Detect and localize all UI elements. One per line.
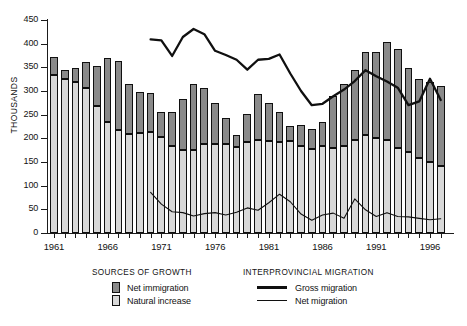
bar-segment-natural-increase (394, 148, 402, 233)
bar-group (147, 20, 155, 233)
bar-group (308, 20, 316, 233)
bar-segment-net-immigration (394, 49, 402, 148)
y-axis-tick (41, 91, 47, 92)
bar-segment-natural-increase (93, 106, 101, 233)
bar-segment-natural-increase (372, 138, 380, 233)
legend-item-natural-increase: Natural increase (92, 294, 192, 307)
bar-segment-natural-increase (233, 147, 241, 233)
legend-label-net-immigration: Net immigration (127, 283, 189, 293)
x-axis-tick (226, 234, 227, 238)
bar-segment-net-immigration (286, 126, 294, 141)
bar-group (125, 20, 133, 233)
bar-segment-net-immigration (340, 84, 348, 146)
x-axis-tick-label: 1991 (366, 241, 386, 252)
y-axis-tick (41, 162, 47, 163)
bar-segment-natural-increase (72, 82, 80, 233)
x-axis-tick (376, 234, 377, 238)
y-axis-tick-label: 300 (8, 86, 38, 95)
x-axis-tick (280, 234, 281, 238)
x-axis-tick (215, 234, 216, 238)
x-axis-tick-label: 1986 (312, 241, 332, 252)
x-axis-tick-label: 1981 (259, 241, 279, 252)
bar-segment-natural-increase (157, 137, 165, 233)
bar-segment-natural-increase (351, 140, 359, 233)
bar-group (104, 20, 112, 233)
x-axis-tick (398, 234, 399, 238)
bar-segment-net-immigration (308, 129, 316, 148)
population-growth-chart: THOUSANDS 050100150200250300350400450 19… (0, 0, 467, 326)
bar-segment-net-immigration (243, 114, 251, 141)
x-axis-tick-label: 1961 (44, 241, 64, 252)
bar-group (286, 20, 294, 233)
y-axis-tick (41, 44, 47, 45)
bar-segment-net-immigration (222, 118, 230, 145)
legend-sources-of-growth: SOURCES OF GROWTH Net immigration Natura… (92, 268, 192, 307)
bar-segment-natural-increase (308, 149, 316, 233)
bar-segment-natural-increase (147, 132, 155, 233)
legend-migration-heading: INTERPROVINCIAL MIGRATION (243, 268, 374, 277)
x-axis-tick (269, 234, 270, 238)
bar-segment-net-immigration (351, 70, 359, 140)
y-axis-tick (41, 20, 47, 21)
bar-group (276, 20, 284, 233)
bar-group (115, 20, 123, 233)
bar-group (351, 20, 359, 233)
bar-segment-natural-increase (243, 142, 251, 233)
bar-segment-net-immigration (329, 96, 337, 148)
bar-segment-natural-increase (168, 146, 176, 233)
bar-group (243, 20, 251, 233)
bar-segment-natural-increase (254, 140, 262, 233)
x-axis-tick (129, 234, 130, 238)
y-axis-tick-label: 200 (8, 133, 38, 142)
bar-segment-net-immigration (147, 93, 155, 131)
legend-interprovincial-migration: INTERPROVINCIAL MIGRATION Gross migratio… (243, 268, 374, 307)
bar-segment-net-immigration (405, 68, 413, 152)
bar-segment-net-immigration (104, 58, 112, 122)
bar-group (136, 20, 144, 233)
x-axis-tick (194, 234, 195, 238)
x-axis-tick (344, 234, 345, 238)
y-axis-tick-label: 400 (8, 39, 38, 48)
x-axis-tick (419, 234, 420, 238)
y-axis-tick-label: 150 (8, 157, 38, 166)
bar-segment-net-immigration (254, 94, 262, 140)
bar-group (50, 20, 58, 233)
x-axis-tick-label: 1976 (205, 241, 225, 252)
x-axis-tick (408, 234, 409, 238)
bar-segment-net-immigration (72, 68, 80, 82)
bar-group (82, 20, 90, 233)
x-axis-tick (97, 234, 98, 238)
bar-segment-net-immigration (136, 92, 144, 133)
bar-group (372, 20, 380, 233)
bar-segment-net-immigration (125, 84, 133, 134)
bar-segment-net-immigration (157, 112, 165, 138)
bar-segment-net-immigration (372, 52, 380, 139)
plot-area (48, 20, 452, 233)
bar-group (329, 20, 337, 233)
bar-segment-natural-increase (437, 166, 445, 233)
legend: SOURCES OF GROWTH Net immigration Natura… (0, 268, 467, 326)
bar-segment-net-immigration (319, 122, 327, 146)
bar-group (297, 20, 305, 233)
bar-group (72, 20, 80, 233)
x-axis-tick (140, 234, 141, 238)
bar-segment-natural-increase (211, 144, 219, 233)
bar-group (254, 20, 262, 233)
bar-group (383, 20, 391, 233)
x-axis-tick (312, 234, 313, 238)
bar-segment-natural-increase (50, 75, 58, 233)
bar-segment-natural-increase (125, 134, 133, 233)
bar-group (394, 20, 402, 233)
bar-segment-net-immigration (50, 57, 58, 75)
x-axis-tick (387, 234, 388, 238)
bar-segment-net-immigration (61, 70, 69, 79)
bar-segment-net-immigration (415, 79, 423, 158)
bar-segment-natural-increase (329, 148, 337, 233)
x-axis-tick (75, 234, 76, 238)
net-immigration-swatch-icon (112, 282, 120, 293)
bar-group (179, 20, 187, 233)
bar-segment-natural-increase (61, 79, 69, 233)
bar-segment-natural-increase (383, 140, 391, 233)
bar-segment-net-immigration (115, 61, 123, 130)
y-axis-tick-label: 100 (8, 181, 38, 190)
